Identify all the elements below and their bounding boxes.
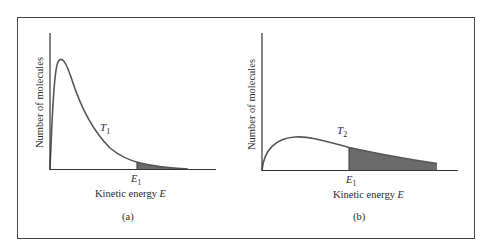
caption-a: (a)	[122, 211, 134, 223]
x-axis-label-b: Kinetic energy E	[333, 189, 405, 200]
x-axis-label-a: Kinetic energy E	[95, 188, 167, 199]
curve-label-t2: T2	[337, 124, 347, 139]
caption-b: (b)	[353, 211, 366, 223]
panel-a: Number of molecules T1 E1 Kinetic energy…	[34, 33, 216, 223]
y-axis-label-b: Number of molecules	[246, 59, 257, 150]
threshold-label-b: E1	[345, 174, 356, 188]
threshold-label-a: E1	[130, 173, 141, 187]
panel-b: Number of molecules T2 E1 Kinetic energy…	[246, 33, 458, 223]
y-axis-label-a: Number of molecules	[34, 57, 45, 148]
distribution-curve-t1	[50, 59, 188, 169]
curve-label-t1: T1	[100, 121, 110, 136]
energy-distribution-figure: Number of molecules T1 E1 Kinetic energy…	[0, 0, 494, 251]
